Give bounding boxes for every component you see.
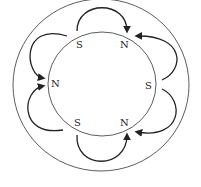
- outer-stator-circle: [13, 0, 189, 171]
- pole-label: S: [76, 39, 83, 50]
- field-arrow-bottom: [77, 135, 127, 161]
- pole-label: S: [74, 117, 81, 128]
- field-arrow-bottom-right: [137, 89, 176, 133]
- field-arrow-bottom-left: [28, 86, 63, 131]
- pole-label: N: [120, 117, 129, 128]
- inner-rotor-circle: [48, 32, 156, 136]
- field-arrow-top-left: [30, 34, 67, 78]
- field-arrow-top: [77, 8, 127, 31]
- pole-label: N: [120, 39, 129, 50]
- magnetic-field-diagram: S N N S S N: [0, 0, 201, 187]
- pole-label: S: [145, 80, 152, 91]
- pole-label: N: [51, 78, 60, 89]
- field-arrow-top-right: [137, 36, 177, 80]
